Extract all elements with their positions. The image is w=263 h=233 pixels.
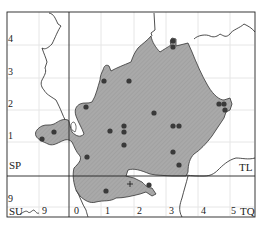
y-label-9: 9 — [8, 194, 13, 204]
distribution-map — [0, 0, 263, 233]
square-label-tl: TL — [239, 162, 252, 173]
x-label-2: 2 — [137, 206, 142, 216]
y-label-3: 3 — [8, 67, 13, 77]
x-label-0: 0 — [74, 206, 79, 216]
shaded-region — [35, 36, 232, 203]
square-label-su: SU — [9, 206, 23, 217]
x-label-9: 9 — [42, 206, 47, 216]
x-label-1: 1 — [105, 206, 110, 216]
county-boundary-north — [151, 13, 155, 36]
y-label-2: 2 — [8, 99, 13, 109]
y-label-4: 4 — [8, 34, 13, 44]
x-label-3: 3 — [169, 206, 174, 216]
x-label-4: 4 — [201, 206, 206, 216]
county-boundary-ne — [194, 24, 255, 39]
x-label-5: 5 — [231, 206, 236, 216]
y-label-1: 1 — [8, 131, 13, 141]
county-boundary-west — [41, 13, 68, 124]
county-boundary-south — [180, 176, 188, 217]
square-label-sp: SP — [9, 160, 21, 171]
square-label-tq: TQ — [240, 206, 255, 217]
